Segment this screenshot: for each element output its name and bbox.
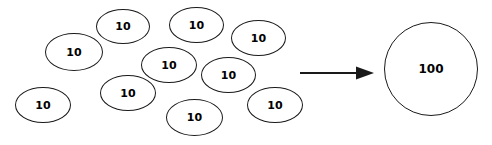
ten-ellipse-label: 10	[161, 60, 176, 71]
ten-ellipse: 10	[100, 75, 156, 111]
ten-ellipse-label: 10	[115, 21, 130, 32]
ten-ellipse: 10	[15, 87, 71, 123]
equals-arrow	[298, 62, 376, 84]
ten-ellipse: 10	[247, 87, 303, 123]
hundred-circle: 100	[384, 22, 478, 116]
ten-ellipse: 10	[166, 99, 223, 136]
diagram-canvas: 10101010101010101010 100	[0, 0, 492, 145]
ten-ellipse-label: 10	[35, 100, 50, 111]
ten-ellipse-label: 10	[66, 47, 81, 58]
ten-ellipse: 10	[201, 57, 256, 93]
ten-ellipse-label: 10	[187, 112, 202, 123]
ten-ellipse-label: 10	[221, 70, 236, 81]
ten-ellipse: 10	[96, 9, 150, 44]
ten-ellipse-label: 10	[267, 100, 282, 111]
ten-ellipse: 10	[45, 33, 103, 71]
ten-ellipse: 10	[169, 7, 224, 43]
ten-ellipse: 10	[231, 20, 286, 56]
hundred-circle-label: 100	[418, 63, 443, 75]
ten-ellipse-label: 10	[189, 20, 204, 31]
ten-ellipse: 10	[141, 47, 197, 83]
ten-ellipse-label: 10	[251, 33, 266, 44]
ten-ellipse-label: 10	[120, 88, 135, 99]
